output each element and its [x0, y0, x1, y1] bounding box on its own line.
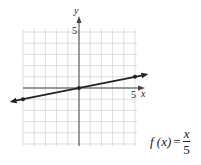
y-axis-label: y — [73, 5, 79, 16]
x-axis-label: x — [140, 88, 146, 99]
y-axis-arrow-icon — [77, 16, 82, 23]
line-arrow-right-icon — [141, 73, 148, 78]
formula-denominator: 5 — [183, 142, 190, 156]
formula-fraction: x 5 — [183, 127, 191, 156]
formula-equals: = — [173, 134, 180, 150]
data-point — [21, 97, 25, 101]
formula-numerator: x — [183, 127, 191, 142]
data-point — [133, 75, 137, 79]
data-point — [77, 86, 81, 90]
y-tick-label: 5 — [72, 25, 77, 36]
x-tick-label: 5 — [131, 89, 136, 100]
line-arrow-left-icon — [10, 98, 17, 103]
formula-lhs: f (x) — [150, 134, 171, 150]
function-formula: f (x) = x 5 — [150, 127, 190, 156]
